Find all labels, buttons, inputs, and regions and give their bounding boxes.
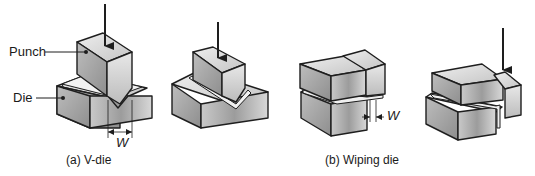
die-label: Die bbox=[13, 90, 33, 105]
wiping-die-closed bbox=[426, 28, 521, 140]
punch-label: Punch bbox=[9, 44, 46, 59]
v-die-open bbox=[36, 4, 152, 138]
v-die-w-label: W bbox=[116, 135, 128, 150]
caption-v-die: (a) V-die bbox=[66, 153, 111, 167]
die-bending-diagram bbox=[0, 0, 535, 176]
caption-wiping-die: (b) Wiping die bbox=[325, 153, 399, 167]
wiping-die-w-label: W bbox=[387, 108, 399, 123]
v-die-closed bbox=[172, 22, 268, 128]
wiping-die-open bbox=[300, 50, 385, 136]
